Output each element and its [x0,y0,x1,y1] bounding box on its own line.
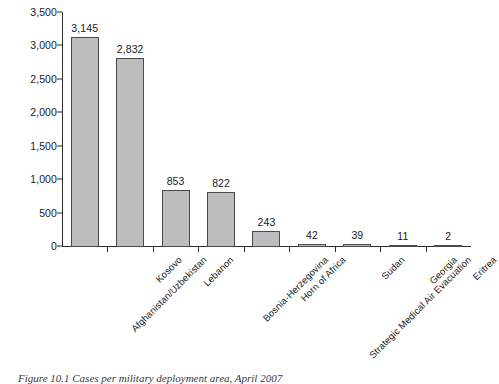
bar[interactable] [434,245,462,247]
bar-slot: 853 [153,12,198,247]
x-axis-tick-mark [289,247,290,252]
bar-value-label: 243 [258,216,276,228]
x-axis-tick-mark [107,247,108,252]
x-axis-tick-mark [244,247,245,252]
bar-value-label: 822 [212,177,230,189]
y-axis-tick-label: 1,500 [30,140,57,152]
bars-layer: 3,1452,8328538222434239112 [62,12,471,247]
bar[interactable] [71,37,99,247]
bar-slot: 11 [380,12,425,247]
bar[interactable] [298,244,326,247]
bar[interactable] [162,190,190,247]
bar-slot: 42 [289,12,334,247]
bar-value-label: 2,832 [117,43,144,55]
x-axis-category-label: Sudan [380,254,408,282]
y-axis-tick-labels: 05001,0001,5002,0002,5003,0003,500 [0,0,57,384]
bar[interactable] [116,58,144,247]
bar-value-label: 42 [306,229,318,241]
x-axis-category-label: Eritrea [471,254,499,282]
bar[interactable] [207,192,235,247]
y-axis-tick-label: 2,500 [30,73,57,85]
y-axis-tick-label: 1,000 [30,173,57,185]
bar[interactable] [343,244,371,247]
x-axis-category-labels: Afghanistan/UzbekistanKosovoLebanonBosni… [62,254,471,354]
y-axis-tick-label: 3,500 [30,6,57,18]
y-axis-tick-label: 500 [39,207,57,219]
bar-slot: 243 [244,12,289,247]
bar[interactable] [252,231,280,247]
x-axis-tick-mark [380,247,381,252]
figure-caption: Figure 10.1 Cases per military deploymen… [18,372,282,384]
bar-value-label: 39 [351,229,363,241]
bar-slot: 39 [335,12,380,247]
bar-slot: 2,832 [107,12,152,247]
y-axis-tick-label: 2,000 [30,106,57,118]
bar-value-label: 2 [445,230,451,242]
bar-value-label: 853 [167,175,185,187]
bar[interactable] [389,245,417,247]
bar-slot: 822 [198,12,243,247]
x-axis-tick-mark [153,247,154,252]
x-axis-tick-mark [335,247,336,252]
x-axis-tick-mark [426,247,427,252]
bar-value-label: 3,145 [71,22,98,34]
x-axis-tick-mark [198,247,199,252]
y-axis-tick-label: 3,000 [30,39,57,51]
bar-value-label: 11 [397,230,408,242]
bar-slot: 2 [426,12,471,247]
bar-slot: 3,145 [62,12,107,247]
